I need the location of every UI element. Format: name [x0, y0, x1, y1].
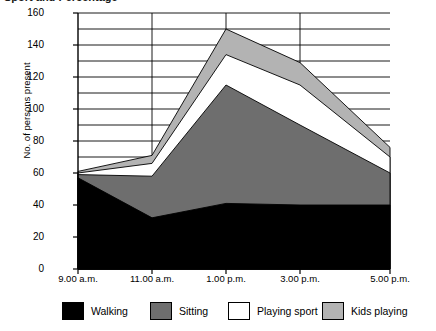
legend-label-kids-playing: Kids playing [351, 305, 408, 317]
chart-legend: Walking Sitting Playing sport Kids playi… [0, 300, 436, 326]
legend-label-walking: Walking [91, 305, 128, 317]
legend-item-playing-sport: Playing sport [228, 300, 318, 322]
legend-item-kids-playing: Kids playing [322, 300, 408, 322]
x-tick-1pm: 1.00 p.m. [186, 274, 266, 284]
legend-swatch-kids-playing [322, 302, 344, 320]
stacked-area-chart: Sport and Percentage No. of persons pres… [0, 0, 436, 331]
x-tick-5pm: 5.00 p.m. [350, 274, 430, 284]
plot-area [0, 0, 436, 300]
legend-label-playing-sport: Playing sport [257, 305, 318, 317]
x-tick-9am: 9.00 a.m. [38, 274, 118, 284]
y-axis-ticks [73, 13, 78, 269]
legend-item-walking: Walking [62, 300, 128, 322]
legend-swatch-sitting [150, 302, 172, 320]
legend-swatch-playing-sport [228, 302, 250, 320]
legend-item-sitting: Sitting [150, 300, 208, 322]
x-tick-3pm: 3.00 p.m. [260, 274, 340, 284]
x-tick-11am: 11.00 a.m. [112, 274, 192, 284]
legend-swatch-walking [62, 302, 84, 320]
legend-label-sitting: Sitting [179, 305, 208, 317]
